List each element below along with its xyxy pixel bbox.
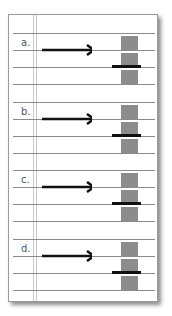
ruled-line (13, 170, 155, 171)
ruled-line (13, 221, 155, 222)
ruled-line (13, 33, 155, 34)
gray-box (121, 139, 138, 153)
gray-box (121, 276, 138, 290)
ruled-line (13, 84, 155, 85)
ruled-line (13, 153, 155, 154)
item-label: c. (21, 174, 30, 185)
right-arrow-icon (42, 113, 92, 125)
right-arrow-icon (42, 181, 92, 193)
gray-box (121, 105, 138, 119)
margin-line (33, 15, 37, 301)
ruled-line (13, 239, 155, 240)
item-label: a. (21, 37, 30, 48)
black-bar (112, 65, 141, 68)
black-bar (112, 271, 141, 274)
gray-box (121, 207, 138, 221)
gray-box (121, 242, 138, 256)
black-bar (112, 134, 141, 137)
notebook-paper: a.b.c.d. (8, 14, 158, 302)
gray-box (121, 36, 138, 50)
item-label: b. (21, 106, 31, 117)
right-arrow-icon (42, 44, 92, 56)
black-bar (112, 202, 141, 205)
ruled-line (13, 290, 155, 291)
item-label: d. (21, 243, 31, 254)
ruled-line (13, 102, 155, 103)
gray-box (121, 70, 138, 84)
right-arrow-icon (42, 250, 92, 262)
gray-box (121, 173, 138, 187)
